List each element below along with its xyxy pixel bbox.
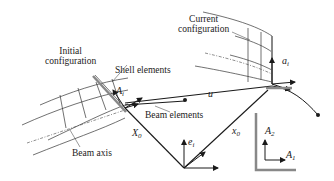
beam-axis-label: Beam axis <box>72 149 112 159</box>
beam-axis-leader <box>70 130 80 147</box>
current-beam-axis-line <box>205 53 272 74</box>
A-i-symbol: Ai <box>116 86 124 98</box>
current-config-label: Current configuration <box>178 15 229 34</box>
beam-elements-label: Beam elements <box>145 111 203 121</box>
x0-symbol: x0 <box>232 126 240 138</box>
a-i-symbol: ai <box>282 56 289 68</box>
current-leader <box>232 32 250 40</box>
u-symbol: u <box>208 89 213 99</box>
X0-symbol: X0 <box>132 128 142 140</box>
initial-config-label: Initial configuration <box>45 47 96 66</box>
initial-shell-mesh <box>22 78 128 155</box>
current-beam <box>272 86 318 115</box>
diagram-graphics <box>0 0 334 181</box>
initial-label-line2: configuration <box>45 57 96 67</box>
A1-symbol: A1 <box>286 150 296 162</box>
beam-shell-diagram: Initial configuration Shell elements Cur… <box>0 0 334 181</box>
u-vector <box>125 86 272 103</box>
current-label-line2: configuration <box>178 25 229 35</box>
A2-symbol: A2 <box>265 126 275 138</box>
shell-elements-label: Shell elements <box>115 66 171 76</box>
e-i-symbol: ei <box>188 137 194 149</box>
